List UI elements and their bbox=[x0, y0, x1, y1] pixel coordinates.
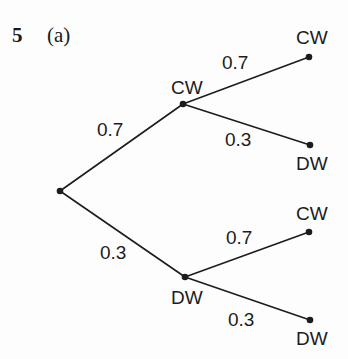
edge-probability-dw-to-dw: 0.3 bbox=[228, 310, 254, 329]
node-label-leaf-dw-cw: CW bbox=[296, 204, 328, 223]
edge-probability-dw-to-cw: 0.7 bbox=[226, 228, 252, 247]
node-root bbox=[57, 188, 64, 195]
node-stage1-cw bbox=[180, 101, 187, 108]
figure-part-label: (a) bbox=[47, 25, 70, 46]
node-leaf-cw-dw bbox=[307, 142, 314, 149]
edge-root-to-dw bbox=[60, 191, 185, 277]
edge-probability-cw-to-cw: 0.7 bbox=[222, 53, 248, 72]
node-stage1-dw bbox=[182, 274, 189, 281]
node-leaf-dw-cw bbox=[306, 229, 313, 236]
probability-tree-figure: 5 (a) CW CW DW CW DW DW 0.7 0.7 0.3 0.7 … bbox=[0, 0, 348, 359]
node-label-leaf-cw-cw: CW bbox=[296, 28, 328, 47]
node-label-leaf-dw-dw: DW bbox=[296, 329, 328, 348]
edge-root-to-cw bbox=[60, 104, 183, 191]
node-leaf-dw-dw bbox=[307, 317, 314, 324]
edge-probability-root-to-cw: 0.7 bbox=[97, 120, 123, 139]
edge-probability-root-to-dw: 0.3 bbox=[100, 243, 126, 262]
node-label-leaf-cw-dw: DW bbox=[296, 154, 328, 173]
node-label-stage1-cw: CW bbox=[171, 78, 203, 97]
edge-probability-cw-to-dw: 0.3 bbox=[225, 130, 251, 149]
node-label-stage1-dw: DW bbox=[171, 288, 203, 307]
figure-number: 5 bbox=[12, 25, 23, 46]
node-leaf-cw-cw bbox=[306, 54, 313, 61]
